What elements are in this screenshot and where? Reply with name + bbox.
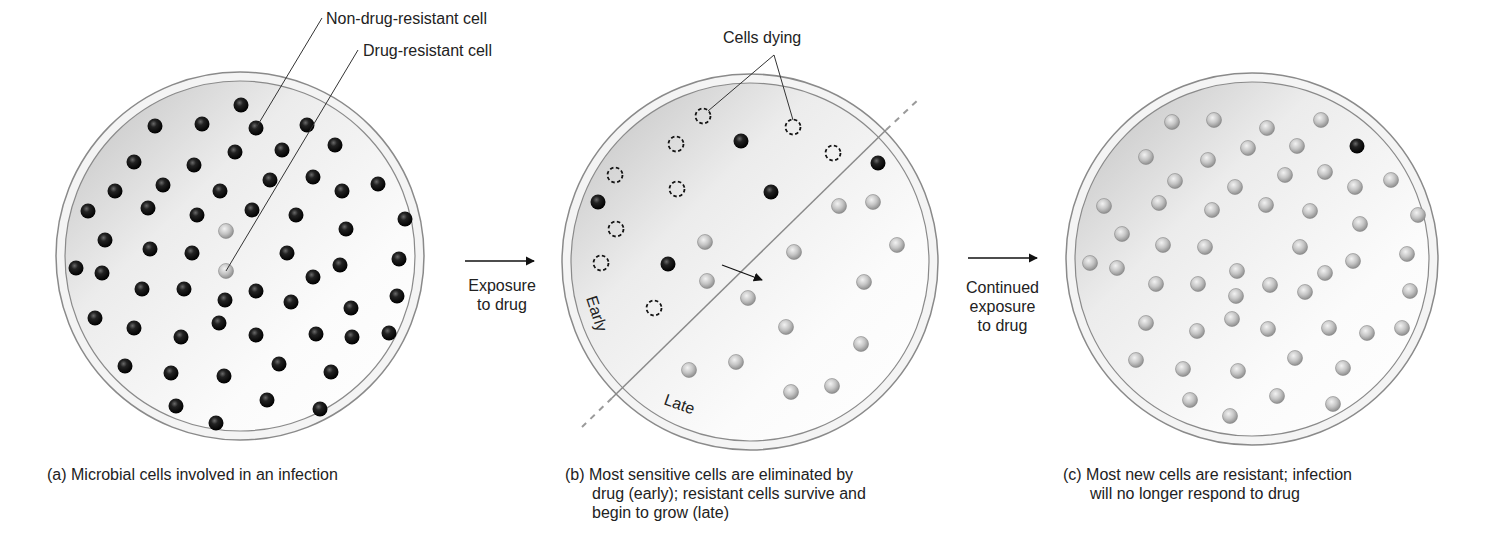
sensitive-cell bbox=[249, 328, 264, 343]
resistant-cell bbox=[1139, 316, 1154, 331]
resistant-cell bbox=[1207, 113, 1222, 128]
sensitive-cell bbox=[280, 246, 295, 261]
sensitive-cell bbox=[306, 270, 321, 285]
caption-b-line-3: begin to grow (late) bbox=[565, 503, 866, 522]
sensitive-cell bbox=[345, 330, 360, 345]
continued-exposure-label: Continued exposure to drug bbox=[950, 278, 1055, 335]
sensitive-cell bbox=[234, 98, 249, 113]
sensitive-cell bbox=[195, 117, 210, 132]
resistant-cell bbox=[890, 238, 905, 253]
caption-a-line-1: (a) Microbial cells involved in an infec… bbox=[47, 465, 338, 484]
resistant-cell bbox=[1353, 217, 1368, 232]
exposure-label-line-1: Exposure bbox=[452, 276, 552, 295]
continued-exposure-line-1: Continued bbox=[950, 278, 1055, 297]
resistant-cell bbox=[1303, 204, 1318, 219]
resistant-cell bbox=[1097, 199, 1112, 214]
sensitive-cell bbox=[306, 170, 321, 185]
resistant-cell bbox=[1083, 256, 1098, 271]
sensitive-cell bbox=[141, 201, 156, 216]
resistant-cell bbox=[1168, 174, 1183, 189]
sensitive-cell bbox=[382, 326, 397, 341]
petri-dish-c bbox=[1066, 73, 1438, 445]
sensitive-cell bbox=[217, 369, 232, 384]
resistant-cell bbox=[1400, 247, 1415, 262]
resistant-cell bbox=[698, 235, 713, 250]
resistant-cell bbox=[784, 385, 799, 400]
sensitive-cell bbox=[81, 204, 96, 219]
resistant-cell bbox=[1205, 203, 1220, 218]
resistant-cell bbox=[1176, 362, 1191, 377]
sensitive-cell bbox=[98, 233, 113, 248]
resistant-cell bbox=[1318, 266, 1333, 281]
sensitive-cell bbox=[108, 184, 123, 199]
resistant-cell bbox=[1165, 115, 1180, 130]
caption-b-line-1: (b) Most sensitive cells are eliminated … bbox=[565, 465, 866, 484]
caption-c-line-1: (c) Most new cells are resistant; infect… bbox=[1063, 465, 1352, 484]
resistant-cell bbox=[1314, 113, 1329, 128]
sensitive-cell bbox=[218, 293, 233, 308]
resistant-cell bbox=[1228, 180, 1243, 195]
sensitive-cell bbox=[260, 393, 275, 408]
divider-dashed-bottom bbox=[582, 398, 612, 427]
resistant-cell bbox=[1318, 165, 1333, 180]
sensitive-cell bbox=[190, 208, 205, 223]
sensitive-cell bbox=[1350, 139, 1365, 154]
sensitive-cell bbox=[734, 134, 749, 149]
petri-dish-a bbox=[56, 72, 424, 440]
exposure-label: Exposure to drug bbox=[452, 276, 552, 314]
sensitive-cell bbox=[95, 266, 110, 281]
sensitive-cell bbox=[148, 119, 163, 134]
resistant-cell bbox=[1183, 393, 1198, 408]
resistant-cell bbox=[1395, 321, 1410, 336]
divider-dashed-top bbox=[886, 98, 920, 130]
sensitive-cell bbox=[390, 289, 405, 304]
resistant-cell bbox=[1191, 277, 1206, 292]
continued-exposure-line-3: to drug bbox=[950, 316, 1055, 335]
sensitive-cell bbox=[275, 143, 290, 158]
resistant-cell bbox=[1263, 278, 1278, 293]
sensitive-cell bbox=[118, 359, 133, 374]
sensitive-cell bbox=[69, 261, 84, 276]
caption-a: (a) Microbial cells involved in an infec… bbox=[47, 465, 338, 484]
sensitive-cell bbox=[309, 327, 324, 342]
resistant-cell bbox=[1129, 353, 1144, 368]
exposure-label-line-2: to drug bbox=[452, 295, 552, 314]
sensitive-cell bbox=[339, 222, 354, 237]
resistant-cell bbox=[1198, 240, 1213, 255]
resistant-cell bbox=[1225, 312, 1240, 327]
resistant-cell bbox=[682, 363, 697, 378]
sensitive-cell bbox=[313, 402, 328, 417]
resistant-cell bbox=[700, 274, 715, 289]
resistant-cell bbox=[1230, 264, 1245, 279]
resistant-cell bbox=[1326, 397, 1341, 412]
resistant-cell bbox=[1348, 180, 1363, 195]
sensitive-cell bbox=[300, 118, 315, 133]
resistant-cell-label: Drug-resistant cell bbox=[363, 41, 492, 61]
sensitive-cell bbox=[392, 252, 407, 267]
sensitive-cell bbox=[344, 301, 359, 316]
resistant-cell bbox=[779, 320, 794, 335]
resistant-cell bbox=[1336, 361, 1351, 376]
sensitive-cell bbox=[289, 208, 304, 223]
resistant-cell bbox=[1259, 198, 1274, 213]
non-resistant-cell-label: Non-drug-resistant cell bbox=[326, 9, 487, 29]
resistant-cell bbox=[1261, 322, 1276, 337]
sensitive-cell bbox=[143, 242, 158, 257]
resistant-cell bbox=[1293, 240, 1308, 255]
resistant-cell bbox=[1241, 141, 1256, 156]
sensitive-cell bbox=[228, 145, 243, 160]
resistant-cell bbox=[866, 195, 881, 210]
resistant-cell bbox=[219, 224, 234, 239]
sensitive-cell bbox=[164, 366, 179, 381]
sensitive-cell bbox=[127, 321, 142, 336]
sensitive-cell bbox=[156, 178, 171, 193]
continued-exposure-line-2: exposure bbox=[950, 297, 1055, 316]
sensitive-cell bbox=[135, 282, 150, 297]
resistant-cell bbox=[1403, 284, 1418, 299]
sensitive-cell bbox=[245, 203, 260, 218]
resistant-cell bbox=[1322, 321, 1337, 336]
resistant-cell bbox=[1360, 326, 1375, 341]
sensitive-cell bbox=[127, 155, 142, 170]
caption-b-line-2: drug (early); resistant cells survive an… bbox=[565, 484, 866, 503]
sensitive-cell bbox=[328, 138, 343, 153]
